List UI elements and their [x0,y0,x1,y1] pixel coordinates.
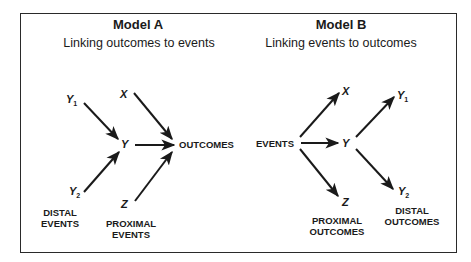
arrow-y-to-y1 [356,97,394,137]
arrows-layer [0,0,471,262]
arrow-y-to-y2 [356,149,393,189]
arrow-events-to-x [300,93,339,137]
arrow-z-to-outcomes [135,152,172,201]
arrow-y1-to-y [84,103,118,139]
arrow-events-to-z [300,149,338,196]
arrow-x-to-outcomes [134,93,172,139]
arrow-y2-to-y [84,152,119,192]
